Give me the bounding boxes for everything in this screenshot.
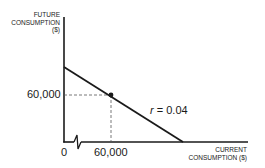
y-axis-label: FUTURE CONSUMPTION ($): [0, 11, 60, 34]
consumption-point: [109, 93, 114, 98]
y-axis-label-line3: ($): [0, 26, 60, 34]
x-tick-label: 60,000: [94, 146, 128, 158]
x-axis-label-line1: CURRENT: [157, 146, 247, 154]
rate-annotation: r = 0.04: [150, 104, 188, 116]
x-axis-label-line2: CONSUMPTION ($): [157, 154, 247, 162]
y-axis-label-line1: FUTURE: [0, 11, 60, 19]
origin-label: 0: [61, 146, 67, 158]
rate-value: = 0.04: [154, 104, 188, 116]
y-axis-label-line2: CONSUMPTION: [0, 19, 60, 27]
y-tick-label: 60,000: [27, 88, 61, 100]
x-axis-label: CURRENT CONSUMPTION ($): [157, 146, 247, 161]
axis-break-icon: [74, 135, 81, 149]
